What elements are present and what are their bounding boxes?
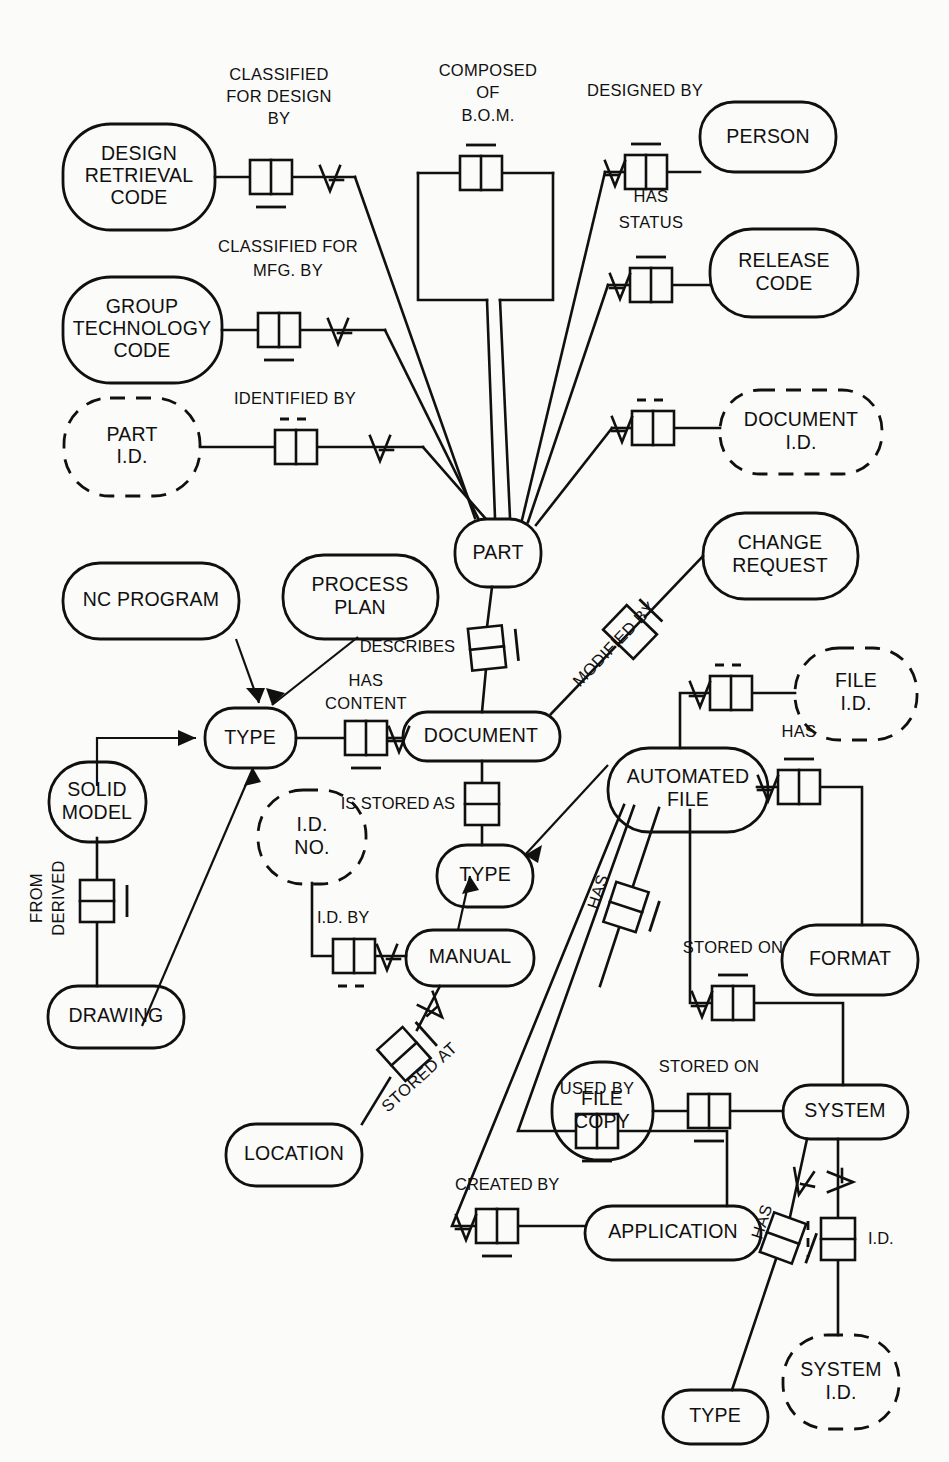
relationship-box-designed-by bbox=[625, 144, 667, 189]
svg-text:MFG. BY: MFG. BY bbox=[253, 261, 323, 279]
rel-label-classified-for-design-by: CLASSIFIED bbox=[229, 65, 328, 83]
entity-label-nc-program: NC PROGRAM bbox=[83, 588, 219, 610]
rel-label-used-by: USED BY bbox=[560, 1079, 635, 1097]
entity-label-release-code: RELEASE bbox=[738, 249, 829, 271]
entity-label-solid-model: SOLID bbox=[67, 778, 127, 800]
rel-label-derived-from: DERIVED bbox=[49, 860, 67, 935]
entity-label-document-id: DOCUMENT bbox=[744, 408, 858, 430]
svg-text:CODE: CODE bbox=[113, 339, 170, 361]
relationship-box-has-status bbox=[630, 257, 672, 302]
relationship-box-composed-of-bom bbox=[460, 145, 502, 190]
relationship-box-stored-on-file-copy bbox=[688, 1094, 730, 1141]
svg-text:NO.: NO. bbox=[294, 836, 329, 858]
svg-text:BY: BY bbox=[268, 109, 291, 127]
rel-label-has-content: HAS bbox=[349, 671, 384, 689]
svg-text:B.O.M.: B.O.M. bbox=[461, 106, 514, 124]
relationship-box-classified-for-mfg-by bbox=[258, 313, 300, 360]
relationship-box-has-content bbox=[345, 721, 387, 768]
rel-label-has-file-copy: HAS bbox=[583, 872, 611, 911]
entity-label-type-system: TYPE bbox=[689, 1404, 741, 1426]
svg-text:RETRIEVAL: RETRIEVAL bbox=[85, 164, 194, 186]
svg-text:REQUEST: REQUEST bbox=[732, 554, 828, 576]
entity-label-drawing: DRAWING bbox=[69, 1004, 164, 1026]
svg-text:I.D.: I.D. bbox=[785, 431, 816, 453]
svg-text:CODE: CODE bbox=[110, 186, 167, 208]
relationship-box-id-by bbox=[333, 939, 375, 986]
relationship-box-has-format bbox=[778, 759, 820, 804]
relationship-box-derived-from bbox=[80, 880, 127, 922]
svg-text:FROM: FROM bbox=[27, 873, 45, 923]
relationship-boxes bbox=[80, 144, 855, 1268]
rel-label-is-stored-as: IS STORED AS bbox=[341, 794, 455, 812]
svg-text:MODEL: MODEL bbox=[62, 801, 132, 823]
entity-label-process-plan: PROCESS bbox=[312, 573, 409, 595]
rel-label-composed-of-bom: COMPOSED bbox=[439, 61, 538, 79]
svg-text:I.D.: I.D. bbox=[825, 1381, 856, 1403]
entity-label-application: APPLICATION bbox=[608, 1220, 738, 1242]
relationship-box-identified-by bbox=[275, 419, 317, 464]
entity-label-design-retrieval-code: DESIGN bbox=[101, 142, 177, 164]
entity-label-group-technology-code: GROUP bbox=[106, 295, 179, 317]
rel-label-created-by: CREATED BY bbox=[455, 1175, 559, 1193]
relationship-labels: CLASSIFIED FOR DESIGN BY COMPOSED OF B.O… bbox=[27, 61, 893, 1247]
svg-text:OF: OF bbox=[476, 83, 500, 101]
svg-text:FOR DESIGN: FOR DESIGN bbox=[226, 87, 332, 105]
entity-label-system: SYSTEM bbox=[804, 1099, 885, 1121]
rel-label-id-by: I.D. BY bbox=[317, 908, 369, 926]
relationship-box-stored-on-automated-file bbox=[712, 975, 754, 1020]
entity-label-manual: MANUAL bbox=[429, 945, 511, 967]
entity-label-type-doc: TYPE bbox=[459, 863, 511, 885]
rel-label-designed-by: DESIGNED BY bbox=[587, 81, 703, 99]
rel-label-describes: DESCRIBES bbox=[360, 637, 455, 655]
svg-text:CONTENT: CONTENT bbox=[325, 694, 407, 712]
svg-text:FILE: FILE bbox=[667, 788, 709, 810]
relationship-box-is-stored-as bbox=[465, 783, 499, 825]
relationship-box-describes bbox=[468, 624, 519, 671]
entity-label-automated-file: AUTOMATED bbox=[627, 765, 749, 787]
rel-label-stored-on-automated-file: STORED ON bbox=[683, 938, 784, 956]
svg-text:STATUS: STATUS bbox=[619, 213, 683, 231]
entity-label-file-id: FILE bbox=[835, 669, 877, 691]
rel-label-identified-by: IDENTIFIED BY bbox=[234, 389, 356, 407]
entity-label-type-left: TYPE bbox=[224, 726, 276, 748]
entity-label-location: LOCATION bbox=[244, 1142, 344, 1164]
er-diagram-canvas: DESIGN RETRIEVAL CODE GROUP TECHNOLOGY C… bbox=[0, 0, 949, 1462]
rel-label-system-id: I.D. bbox=[868, 1229, 894, 1247]
svg-text:I.D.: I.D. bbox=[116, 445, 147, 467]
entity-label-id-no: I.D. bbox=[296, 813, 327, 835]
entity-label-system-id: SYSTEM bbox=[800, 1358, 881, 1380]
relationship-box-file-id bbox=[710, 665, 752, 710]
svg-text:PLAN: PLAN bbox=[334, 596, 386, 618]
rel-label-stored-on-file-copy: STORED ON bbox=[659, 1057, 760, 1075]
entity-label-part-id: PART bbox=[106, 423, 157, 445]
svg-text:CODE: CODE bbox=[755, 272, 812, 294]
relationship-box-has-file-copy bbox=[603, 882, 661, 936]
entity-label-person: PERSON bbox=[726, 125, 810, 147]
svg-text:COPY: COPY bbox=[574, 1110, 630, 1132]
svg-text:I.D.: I.D. bbox=[840, 692, 871, 714]
relationship-box-document-id bbox=[632, 400, 674, 445]
rel-label-has-format: HAS bbox=[782, 722, 817, 740]
rel-label-has-status: HAS bbox=[634, 187, 669, 205]
relationship-box-created-by bbox=[476, 1209, 518, 1256]
entity-label-document: DOCUMENT bbox=[424, 724, 538, 746]
relationship-box-classified-for-design-by bbox=[250, 160, 292, 207]
svg-text:TECHNOLOGY: TECHNOLOGY bbox=[73, 317, 212, 339]
rel-label-classified-for-mfg-by: CLASSIFIED FOR bbox=[218, 237, 358, 255]
entity-label-format: FORMAT bbox=[809, 947, 891, 969]
entity-label-part: PART bbox=[472, 541, 523, 563]
entity-label-change-request: CHANGE bbox=[738, 531, 823, 553]
